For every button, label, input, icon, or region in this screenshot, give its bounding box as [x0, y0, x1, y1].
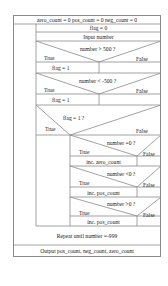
cond2-text: number < -500 ?: [79, 78, 116, 84]
cond2-false: False: [136, 88, 148, 94]
cond1-false: False: [136, 56, 148, 62]
nested1-true: True: [79, 149, 89, 155]
init-statement: zero_count = 0 pos_count = 0 neg_count =…: [13, 17, 161, 23]
cond3-false: False: [136, 128, 148, 134]
repeat-condition: Repeat until number =-999: [13, 233, 161, 239]
nested3-action: inc. pos_count: [70, 219, 137, 225]
nested2-text: number <0 ?: [107, 171, 135, 177]
input-statement: Input number: [36, 34, 161, 40]
nested1-action: inc. zero_count: [70, 159, 137, 165]
cond3-true: True: [45, 126, 55, 132]
nested3-false: False: [143, 212, 155, 218]
flag-init: flag = 0: [36, 25, 161, 31]
nested2-true: True: [79, 180, 89, 186]
cond2-true: True: [44, 87, 54, 93]
diagram-lines: [0, 0, 168, 286]
cond1-text: number > 500 ?: [80, 46, 115, 52]
nested1-false: False: [143, 151, 155, 157]
output-statement: Output pos_count, neg_count, zero_count: [13, 248, 161, 254]
cond3-text: flag = 1 ?: [63, 115, 84, 121]
cond2-action: flag = 1: [52, 97, 69, 103]
nested3-true: True: [79, 210, 89, 216]
nested3-text: number >0 ?: [107, 201, 135, 207]
cond1-action: flag = 1: [52, 65, 69, 71]
nested2-action: inc. pos_count: [70, 190, 137, 196]
nested2-false: False: [143, 182, 155, 188]
cond1-true: True: [44, 55, 54, 61]
nested1-text: number =0 ?: [107, 140, 135, 146]
